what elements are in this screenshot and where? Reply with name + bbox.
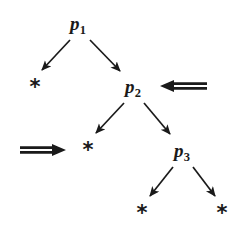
tree-edge <box>42 40 70 70</box>
tree-leaf-asterisk: * <box>217 203 228 224</box>
pointer-to-leaf-b-icon <box>20 144 66 156</box>
tree-edge <box>144 103 170 134</box>
tree-edge-layer <box>0 0 232 228</box>
tree-node-p2: p2 <box>125 77 141 99</box>
tree-node-p1: p1 <box>70 14 86 36</box>
tree-node-p2-label: p2 <box>125 76 141 97</box>
tree-edge <box>150 167 173 196</box>
tree-leaf-asterisk: * <box>83 140 94 161</box>
tree-edge <box>90 40 120 71</box>
pointer-to-p2-icon <box>160 80 207 92</box>
tree-node-p3-label: p3 <box>174 140 190 161</box>
tree-diagram: p1 p2 p3 * * * * <box>0 0 232 228</box>
tree-node-p1-label: p1 <box>70 13 86 34</box>
tree-leaf-asterisk: * <box>30 77 41 98</box>
tree-edge <box>193 167 215 196</box>
tree-edge <box>96 103 124 133</box>
tree-leaf-asterisk: * <box>137 203 148 224</box>
tree-node-p3: p3 <box>174 141 190 163</box>
